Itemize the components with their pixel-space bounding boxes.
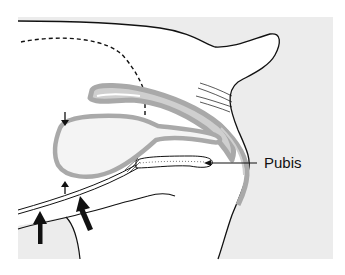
pubis-label: Pubis: [264, 154, 302, 171]
pelvis-diagram: Pubis: [0, 0, 345, 275]
